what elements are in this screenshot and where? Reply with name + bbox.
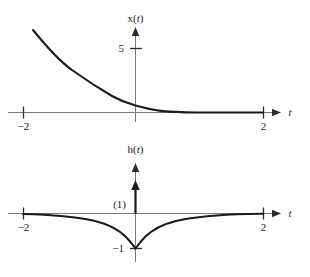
signal-label-h-of-t: h(t) [128, 143, 144, 156]
signal-plots-figure: x(t) 5 −2 2 t h(t) [0, 0, 310, 277]
signal-label-x-of-t: x(t) [128, 12, 144, 25]
x-axis-label-top: t [288, 106, 292, 118]
y-axis-arrowhead-bottom [132, 163, 139, 172]
plot-h-of-t: h(t) (1) −1 −2 2 t [8, 143, 292, 262]
impulse-arrowhead-h-of-t [131, 180, 139, 190]
x-tick-label-2-bottom: 2 [261, 221, 267, 233]
y-tick-label-5-top: 5 [119, 42, 125, 54]
x-tick-label-minus2-bottom: −2 [18, 221, 30, 233]
plot-x-of-t: x(t) 5 −2 2 t [8, 12, 292, 132]
x-axis-arrowhead-top [272, 109, 281, 116]
x-tick-label-minus2-top: −2 [18, 120, 30, 132]
impulse-area-label: (1) [113, 198, 126, 211]
curve-x-of-t [33, 30, 263, 113]
x-axis-label-bottom: t [288, 207, 292, 219]
y-tick-label-minus1-bottom: −1 [112, 242, 124, 254]
y-axis-arrowhead-top [132, 27, 139, 36]
figure-svg: x(t) 5 −2 2 t h(t) [0, 0, 310, 277]
x-axis-arrowhead-bottom [272, 210, 281, 217]
curve-h-of-t-right [136, 214, 264, 249]
x-tick-label-2-top: 2 [261, 120, 267, 132]
